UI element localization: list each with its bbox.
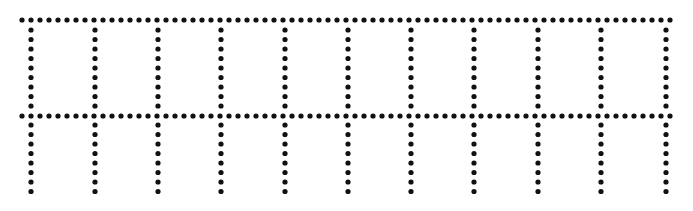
vertical-line-11-dot [663, 189, 668, 194]
horizontal-line-2-dot [541, 113, 546, 118]
horizontal-line-1-dot [559, 17, 564, 22]
horizontal-line-1-dot [172, 17, 177, 22]
vertical-line-4-dot [218, 141, 223, 146]
horizontal-line-2-dot [361, 113, 366, 118]
vertical-line-7-dot [408, 103, 413, 108]
horizontal-line-1-dot [433, 17, 438, 22]
vertical-line-2-dot [92, 189, 97, 194]
horizontal-line-2-dot [217, 113, 222, 118]
horizontal-line-1-dot [460, 17, 465, 22]
vertical-line-6-dot [345, 103, 350, 108]
vertical-line-3-dot [155, 94, 160, 99]
horizontal-line-2-dot [559, 113, 564, 118]
horizontal-line-2-dot [397, 113, 402, 118]
horizontal-line-1-dot [361, 17, 366, 22]
vertical-line-7-dot [408, 151, 413, 156]
vertical-line-9-dot [535, 132, 540, 137]
vertical-line-8-dot [471, 56, 476, 61]
vertical-line-5-dot [282, 132, 287, 137]
horizontal-line-1-dot [100, 17, 105, 22]
horizontal-line-2-dot [82, 113, 87, 118]
vertical-line-4-dot [218, 56, 223, 61]
vertical-line-10-dot [598, 46, 603, 51]
vertical-line-3-dot [155, 84, 160, 89]
vertical-line-1-dot [28, 151, 33, 156]
vertical-line-2-dot [92, 122, 97, 127]
horizontal-line-1-dot [595, 17, 600, 22]
vertical-line-11-dot [663, 56, 668, 61]
horizontal-line-2-dot [586, 113, 591, 118]
horizontal-line-2-dot [550, 113, 555, 118]
horizontal-line-1-dot [532, 17, 537, 22]
vertical-line-9-dot [535, 122, 540, 127]
horizontal-line-2-dot [649, 113, 654, 118]
horizontal-line-2-dot [244, 113, 249, 118]
vertical-line-11-dot [663, 179, 668, 184]
vertical-line-11-dot [663, 122, 668, 127]
vertical-line-7-dot [408, 65, 413, 70]
vertical-line-6-dot [345, 56, 350, 61]
vertical-line-10-dot [598, 151, 603, 156]
horizontal-line-1-dot [55, 17, 60, 22]
vertical-line-9-dot [535, 141, 540, 146]
horizontal-line-2-dot [370, 113, 375, 118]
vertical-line-3-dot [155, 65, 160, 70]
horizontal-line-1-dot [307, 17, 312, 22]
horizontal-line-2-dot [343, 113, 348, 118]
horizontal-line-2-dot [73, 113, 78, 118]
vertical-line-2-dot [92, 170, 97, 175]
horizontal-line-2-dot [523, 113, 528, 118]
horizontal-line-1-dot [208, 17, 213, 22]
horizontal-line-2-dot [64, 113, 69, 118]
horizontal-line-1-dot [298, 17, 303, 22]
vertical-line-6-dot [345, 46, 350, 51]
vertical-line-8-dot [471, 75, 476, 80]
vertical-line-3-dot [155, 141, 160, 146]
vertical-line-11-dot [663, 65, 668, 70]
vertical-line-1-dot [28, 46, 33, 51]
horizontal-line-2-dot [181, 113, 186, 118]
horizontal-line-2-dot [127, 113, 132, 118]
vertical-line-9-dot [535, 27, 540, 32]
vertical-line-11-dot [663, 84, 668, 89]
vertical-line-1-dot [28, 170, 33, 175]
vertical-line-8-dot [471, 122, 476, 127]
horizontal-line-2-dot [298, 113, 303, 118]
horizontal-line-1-dot [370, 17, 375, 22]
horizontal-line-1-dot [649, 17, 654, 22]
vertical-line-2-dot [92, 46, 97, 51]
vertical-line-1-dot [28, 94, 33, 99]
horizontal-line-2-dot [379, 113, 384, 118]
horizontal-line-1-dot [235, 17, 240, 22]
vertical-line-2-dot [92, 103, 97, 108]
vertical-line-3-dot [155, 37, 160, 42]
vertical-line-3-dot [155, 132, 160, 137]
horizontal-line-2-dot [532, 113, 537, 118]
horizontal-line-1-dot [64, 17, 69, 22]
horizontal-line-2-dot [46, 113, 51, 118]
vertical-line-4-dot [218, 94, 223, 99]
vertical-line-1-dot [28, 179, 33, 184]
vertical-line-10-dot [598, 37, 603, 42]
vertical-line-4-dot [218, 151, 223, 156]
vertical-line-9-dot [535, 46, 540, 51]
horizontal-line-2-dot [109, 113, 114, 118]
horizontal-line-1-dot [667, 17, 672, 22]
horizontal-line-1-dot [109, 17, 114, 22]
horizontal-line-1-dot [388, 17, 393, 22]
vertical-line-3-dot [155, 103, 160, 108]
vertical-line-7-dot [408, 189, 413, 194]
horizontal-line-2-dot [568, 113, 573, 118]
vertical-line-11-dot [663, 170, 668, 175]
horizontal-line-2-dot [442, 113, 447, 118]
vertical-line-2-dot [92, 65, 97, 70]
horizontal-line-2-dot [253, 113, 258, 118]
horizontal-line-1-dot [541, 17, 546, 22]
horizontal-line-1-dot [145, 17, 150, 22]
vertical-line-9-dot [535, 179, 540, 184]
vertical-line-8-dot [471, 37, 476, 42]
vertical-line-9-dot [535, 170, 540, 175]
vertical-line-6-dot [345, 170, 350, 175]
vertical-line-11-dot [663, 27, 668, 32]
vertical-line-4-dot [218, 37, 223, 42]
